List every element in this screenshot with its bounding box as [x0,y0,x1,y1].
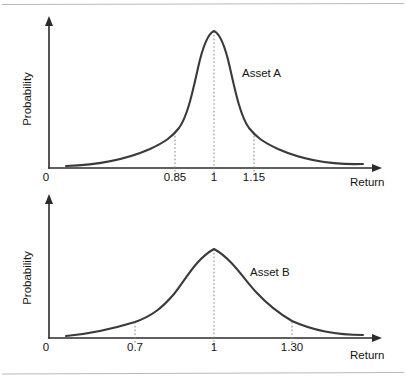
chart-a-xtick-label-2: 1.15 [243,171,265,183]
figure-canvas: 0.85 1 1.15 0 Return Probability Asset A [0,0,406,387]
chart-a-xtick-label-0: 0.85 [164,171,186,183]
chart-a-x-axis-arrow-icon [372,164,382,172]
chart-a-series-label: Asset A [242,67,281,79]
chart-asset-b: 0.7 1 1.30 0 Return Probability Asset B [21,194,385,361]
chart-b-curve [66,249,363,336]
chart-a-y-axis-title: Probability [21,72,33,126]
chart-a-xtick-label-1: 1 [211,171,217,183]
chart-a-x-axis-title: Return [350,176,385,188]
chart-b-x-axis-arrow-icon [372,334,382,342]
chart-b-xtick-label-2: 1.30 [281,341,303,353]
chart-b-origin-label: 0 [43,341,49,353]
distribution-figure: 0.85 1 1.15 0 Return Probability Asset A [0,0,406,387]
chart-b-x-axis-title: Return [350,349,385,361]
chart-a-origin-label: 0 [43,171,49,183]
chart-b-xtick-label-1: 1 [211,341,217,353]
chart-a-y-axis-arrow-icon [45,16,53,26]
bottom-divider-rule [2,373,404,375]
top-divider-rule [2,4,404,5]
chart-b-y-axis-arrow-icon [45,194,53,204]
chart-b-y-axis-title: Probability [21,251,33,305]
chart-b-xtick-label-0: 0.7 [127,341,143,353]
chart-asset-a: 0.85 1 1.15 0 Return Probability Asset A [21,16,385,188]
chart-b-series-label: Asset B [250,266,290,278]
